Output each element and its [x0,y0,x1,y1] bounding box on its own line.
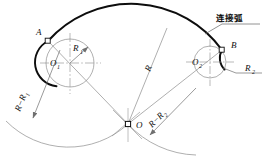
technical-drawing-canvas: A B O O 1 O 2 R 1 R 2 R R−R 1 R−R 2 连接弧 [0,0,268,162]
label-r-minus-r1-group: R−R 1 [12,90,31,114]
aux-arc-left-r-minus-r1 [6,121,128,147]
annotation-connecting-arc: 连接弧 [216,13,243,23]
label-point-b: B [231,40,237,50]
radial-line-o-to-a [48,41,128,124]
label-radius-r1: R [72,43,79,53]
tangent-point-marker-b [219,47,224,52]
circle-o2-heavy-arc [220,50,225,70]
label-radius-r1-subscript: 1 [80,49,83,55]
label-center-o1: O [50,58,57,68]
label-radius-r2: R [244,63,251,73]
leader-line-r2 [223,68,262,73]
label-center-o1-subscript: 1 [57,64,60,70]
label-point-o: O [136,120,143,130]
construction-drawing-svg: A B O O 1 O 2 R 1 R 2 R R−R 1 R−R 2 连接弧 [0,0,268,162]
label-center-o2: O [192,57,199,67]
tangent-point-marker-a [45,38,50,43]
label-point-a: A [35,27,42,37]
center-point-marker-o [125,121,130,126]
leader-line-connecting-arc [205,24,260,34]
label-center-o2-subscript: 2 [199,63,202,69]
dimension-line-r [128,28,167,124]
label-radius-r2-subscript: 2 [252,69,255,75]
radial-line-o-to-b [128,50,222,124]
